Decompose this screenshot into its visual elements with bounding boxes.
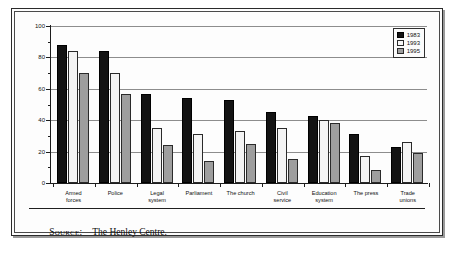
x-axis-label: Armed forces <box>50 190 97 204</box>
source-value: The Henley Centre. <box>92 227 167 237</box>
source-label: Source: <box>49 227 82 237</box>
legend-label: 1993 <box>407 40 420 46</box>
x-axis-label: The church <box>217 190 264 197</box>
x-tick <box>137 183 138 187</box>
x-axis-label: Parliament <box>175 190 222 197</box>
bar-1993-3 <box>152 128 162 183</box>
y-tick-minor <box>48 167 51 168</box>
source-divider <box>29 208 425 209</box>
x-axis-label: Trade unions <box>384 190 431 204</box>
y-tick-minor <box>48 42 51 43</box>
bar-group <box>99 26 132 183</box>
y-tick-minor <box>48 73 51 74</box>
x-axis-label: Education system <box>301 190 348 204</box>
y-tick-minor <box>48 105 51 106</box>
bar-1983-3 <box>141 94 151 183</box>
x-axis-label: Police <box>92 190 139 197</box>
x-tick <box>262 183 263 187</box>
bar-1993-6 <box>277 128 287 183</box>
x-tick <box>304 183 305 187</box>
x-tick <box>387 183 388 187</box>
bar-1983-7 <box>308 116 318 184</box>
x-tick <box>220 183 221 187</box>
bar-1995-9 <box>413 153 423 183</box>
x-tick <box>345 183 346 187</box>
bar-group <box>308 26 341 183</box>
bar-1995-6 <box>288 159 298 183</box>
x-axis-line <box>50 183 428 184</box>
legend-swatch-icon <box>397 32 404 38</box>
bar-group <box>57 26 90 183</box>
bar-1983-9 <box>391 147 401 183</box>
y-tick-minor <box>48 136 51 137</box>
chart-plot-area: 020406080100 Armed forcesPoliceLegal sys… <box>51 26 427 183</box>
legend-label: 1983 <box>407 32 420 38</box>
x-axis-label: Civil service <box>259 190 306 204</box>
x-axis-label: Legal system <box>134 190 181 204</box>
y-tick-major <box>46 26 51 27</box>
bar-1983-6 <box>266 112 276 183</box>
bar-group <box>224 26 257 183</box>
bar-group <box>349 26 382 183</box>
bar-1993-1 <box>68 51 78 183</box>
y-tick-major <box>46 183 51 184</box>
y-tick-label: 100 <box>35 23 45 29</box>
legend-1995: 1995 <box>397 47 420 55</box>
y-tick-label: 20 <box>38 149 45 155</box>
bar-1983-4 <box>182 98 192 183</box>
x-tick <box>178 183 179 187</box>
bar-1993-5 <box>235 131 245 183</box>
bar-1993-7 <box>319 120 329 183</box>
figure-frame: 020406080100 Armed forcesPoliceLegal sys… <box>11 8 443 236</box>
source-line: Source:The Henley Centre. <box>35 217 167 247</box>
bar-1983-8 <box>349 134 359 183</box>
y-tick-label: 0 <box>42 180 45 186</box>
bar-1993-2 <box>110 73 120 183</box>
bar-1995-1 <box>79 73 89 183</box>
bar-1983-1 <box>57 45 67 183</box>
y-tick-major <box>46 152 51 153</box>
legend-label: 1995 <box>407 48 420 54</box>
bar-1995-3 <box>163 145 173 183</box>
bar-group <box>266 26 299 183</box>
bar-1995-5 <box>246 144 256 183</box>
y-tick-major <box>46 89 51 90</box>
bar-group <box>182 26 215 183</box>
x-axis-label: The press <box>342 190 389 197</box>
legend-1983: 1983 <box>397 31 420 39</box>
y-tick-label: 40 <box>38 117 45 123</box>
y-tick-major <box>46 120 51 121</box>
y-tick-major <box>46 57 51 58</box>
bar-1993-9 <box>402 142 412 183</box>
bar-1983-2 <box>99 51 109 183</box>
bar-1993-8 <box>360 156 370 183</box>
x-tick <box>53 183 54 187</box>
x-tick <box>429 183 430 187</box>
legend-1993: 1993 <box>397 39 420 47</box>
bar-1995-4 <box>204 161 214 183</box>
figure-inner-border: 020406080100 Armed forcesPoliceLegal sys… <box>14 11 440 233</box>
x-tick <box>95 183 96 187</box>
bar-1993-4 <box>193 134 203 183</box>
bar-1995-2 <box>121 94 131 183</box>
bar-1995-7 <box>330 123 340 183</box>
bar-1983-5 <box>224 100 234 183</box>
bar-1995-8 <box>371 170 381 183</box>
legend-swatch-icon <box>397 48 404 54</box>
bar-group <box>141 26 174 183</box>
y-tick-label: 60 <box>38 86 45 92</box>
legend-swatch-icon <box>397 40 404 46</box>
chart-legend: 198319931995 <box>393 28 425 58</box>
y-tick-label: 80 <box>38 54 45 60</box>
